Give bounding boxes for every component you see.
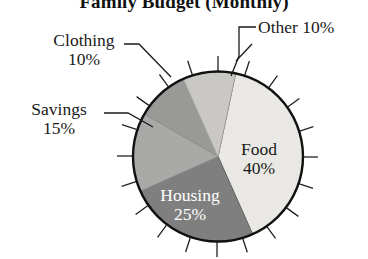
callout-savings-percent: 15% xyxy=(8,119,110,138)
slice-label-food-name: Food xyxy=(241,139,277,159)
callout-savings: Savings 15% xyxy=(8,100,110,138)
slice-label-housing-name: Housing xyxy=(160,185,219,205)
callout-clothing-name: Clothing xyxy=(53,30,114,50)
slice-label-housing: Housing 25% xyxy=(142,186,238,224)
slice-label-food-percent: 40% xyxy=(222,159,296,178)
pie-chart: Family Budget (Monthly) xyxy=(0,0,368,259)
callout-savings-name: Savings xyxy=(31,99,86,119)
slice-label-food: Food 40% xyxy=(222,140,296,178)
callout-other: Other 10% xyxy=(258,18,334,37)
callout-clothing: Clothing 10% xyxy=(32,31,136,69)
slice-label-housing-percent: 25% xyxy=(142,205,238,224)
callout-clothing-percent: 10% xyxy=(32,50,136,69)
leader-line-other xyxy=(231,27,256,76)
